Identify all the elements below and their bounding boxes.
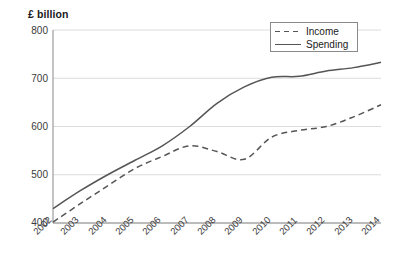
- legend-label-income: Income: [306, 27, 339, 37]
- line-chart: £ billion 800 700 600 500 400 2002200320…: [0, 0, 395, 266]
- series-line-spending: [53, 62, 381, 208]
- legend-item-income: Income: [275, 25, 339, 38]
- chart-legend: Income Spending: [270, 22, 358, 52]
- series-line-income: [53, 105, 381, 222]
- legend-solid-line-icon: [275, 44, 301, 46]
- legend-item-spending: Spending: [275, 38, 348, 51]
- legend-dashed-line-icon: [275, 31, 301, 33]
- gridlines: [53, 30, 381, 223]
- series-lines: [53, 62, 381, 222]
- legend-label-spending: Spending: [306, 40, 348, 50]
